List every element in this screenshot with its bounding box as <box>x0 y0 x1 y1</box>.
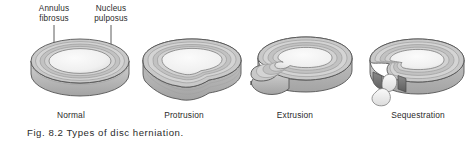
stage-label-normal: Normal <box>36 110 106 120</box>
disc-illustration-sequestration <box>356 30 468 116</box>
figure-caption: Fig. 8.2 Types of disc herniation. <box>27 127 184 138</box>
sequestered-fragment-lower <box>372 88 390 105</box>
stage-label-protrusion: Protrusion <box>144 110 224 120</box>
disc-herniation-figure: Annulus fibrosus Nucleus pulposus <box>0 0 476 145</box>
disc-illustration-normal <box>28 30 132 106</box>
stage-label-extrusion: Extrusion <box>255 110 335 120</box>
nucleus-pulposus <box>49 49 111 74</box>
disc-illustration-extrusion <box>246 30 356 114</box>
stage-label-sequestration: Sequestration <box>370 110 466 120</box>
disc-illustration-protrusion <box>140 30 244 110</box>
ruptured-annulus-edge-right <box>398 76 406 93</box>
